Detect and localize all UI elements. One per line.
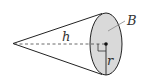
cone-diagram: h r B: [0, 0, 149, 83]
cone-figure: h r B: [0, 0, 149, 83]
radius-label: r: [107, 53, 114, 68]
height-label: h: [62, 29, 70, 44]
base-label: B: [126, 13, 137, 28]
center-dot: [104, 42, 108, 46]
cone-slant-bottom: [13, 44, 102, 75]
cone-slant-top: [13, 14, 102, 44]
